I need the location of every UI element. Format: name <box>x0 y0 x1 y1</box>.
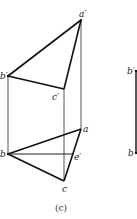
label-c: c <box>62 184 67 194</box>
edge-b-c <box>8 154 64 181</box>
label-b: b <box>0 149 6 159</box>
point-a-prime <box>80 19 82 21</box>
label-a: a <box>83 124 88 134</box>
label-a-prime: a′ <box>79 9 86 19</box>
right-point-b-prime <box>135 70 137 72</box>
edge-b-prime-c-prime <box>8 76 64 89</box>
right-point-b <box>135 152 137 154</box>
right-label-b: b <box>128 148 134 158</box>
label-c-prime: c′ <box>52 92 59 102</box>
descriptive-geometry-diagram: a′ b′ c′ a b e′ c b′ b (c) <box>0 0 137 219</box>
edge-a-b <box>8 129 81 154</box>
right-label-b-prime: b′ <box>127 66 135 76</box>
point-b <box>7 153 9 155</box>
label-e-prime: e′ <box>74 152 81 162</box>
figure-caption: (c) <box>55 203 67 213</box>
label-b-prime: b′ <box>0 71 8 81</box>
